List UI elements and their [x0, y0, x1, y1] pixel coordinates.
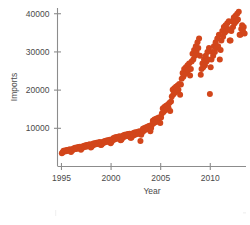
x-tick-labels: 1995200020052010: [52, 173, 220, 183]
x-tick-label: 2005: [151, 173, 170, 183]
x-tick-label: 2000: [102, 173, 121, 183]
chart-canvas: 10000200003000040000 1995200020052010 Im…: [0, 0, 250, 225]
data-point: [208, 64, 214, 70]
data-point: [178, 81, 184, 87]
y-axis-title: Imports: [9, 73, 19, 101]
data-point: [241, 24, 247, 30]
imports-scatter-chart: 10000200003000040000 1995200020052010 Im…: [0, 0, 250, 225]
data-point: [228, 37, 234, 43]
plot-points-group: [59, 9, 248, 156]
data-point: [242, 31, 248, 37]
data-point: [195, 45, 201, 51]
data-point: [218, 47, 224, 53]
scan-artifacts: [55, 210, 246, 216]
data-point: [207, 91, 213, 97]
y-tick-labels: 10000200003000040000: [26, 9, 50, 134]
data-point: [137, 138, 143, 144]
y-tick-label: 40000: [26, 9, 50, 19]
data-point: [188, 66, 194, 72]
data-point: [157, 120, 163, 126]
data-point: [177, 92, 183, 98]
data-point: [187, 73, 193, 79]
data-point: [167, 108, 173, 114]
y-tick-label: 30000: [26, 47, 50, 57]
data-point: [235, 16, 241, 22]
y-tick-label: 20000: [26, 85, 50, 95]
x-axis-title: Year: [143, 186, 160, 196]
data-point: [196, 36, 202, 42]
data-point: [236, 9, 242, 15]
x-tick-label: 2010: [201, 173, 220, 183]
y-tick-label: 10000: [26, 123, 50, 133]
data-point: [217, 57, 223, 63]
x-tick-label: 1995: [52, 173, 71, 183]
data-point: [198, 72, 204, 78]
